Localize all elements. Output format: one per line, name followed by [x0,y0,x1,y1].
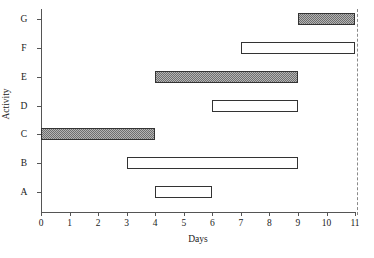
gantt-bar-B[interactable] [127,157,298,169]
y-axis-title: Activity [0,74,12,134]
y-tick-label-A: A [14,185,34,199]
x-tick-0 [41,212,42,216]
gantt-bar-A[interactable] [155,186,212,198]
gantt-bar-G[interactable] [298,13,355,25]
project-deadline-line [357,9,358,215]
x-axis-title: Days [41,233,355,245]
x-tick-label-11: 11 [340,217,370,229]
x-tick-label-7: 7 [226,217,256,229]
y-tick-label-B: B [14,156,34,170]
x-tick-1 [70,212,71,216]
x-tick-4 [155,212,156,216]
x-tick-3 [127,212,128,216]
gantt-bar-E[interactable] [155,71,298,83]
y-tick-F [37,48,41,49]
x-tick-label-4: 4 [140,217,170,229]
x-tick-7 [241,212,242,216]
y-tick-A [37,192,41,193]
gantt-bar-D[interactable] [212,100,298,112]
y-tick-label-F: F [14,41,34,55]
y-tick-G [37,19,41,20]
y-axis-line [41,9,42,213]
x-tick-label-10: 10 [312,217,342,229]
y-tick-label-G: G [14,12,34,26]
x-tick-10 [327,212,328,216]
x-tick-5 [184,212,185,216]
x-tick-label-2: 2 [83,217,113,229]
x-tick-8 [269,212,270,216]
gantt-bar-F[interactable] [241,42,355,54]
x-tick-label-5: 5 [169,217,199,229]
gantt-chart: 01234567891011 ABCDEFG Days Activity [0,0,374,258]
x-axis-line [41,212,355,213]
x-tick-label-6: 6 [197,217,227,229]
gantt-bar-C[interactable] [41,128,155,140]
x-tick-11 [355,212,356,216]
x-tick-label-1: 1 [55,217,85,229]
x-tick-label-0: 0 [26,217,56,229]
x-tick-label-8: 8 [254,217,284,229]
y-tick-B [37,163,41,164]
y-tick-label-C: C [14,127,34,141]
x-tick-label-3: 3 [112,217,142,229]
y-tick-label-E: E [14,70,34,84]
y-tick-E [37,77,41,78]
x-tick-label-9: 9 [283,217,313,229]
y-tick-label-D: D [14,99,34,113]
y-tick-D [37,106,41,107]
x-tick-2 [98,212,99,216]
x-tick-9 [298,212,299,216]
x-tick-6 [212,212,213,216]
